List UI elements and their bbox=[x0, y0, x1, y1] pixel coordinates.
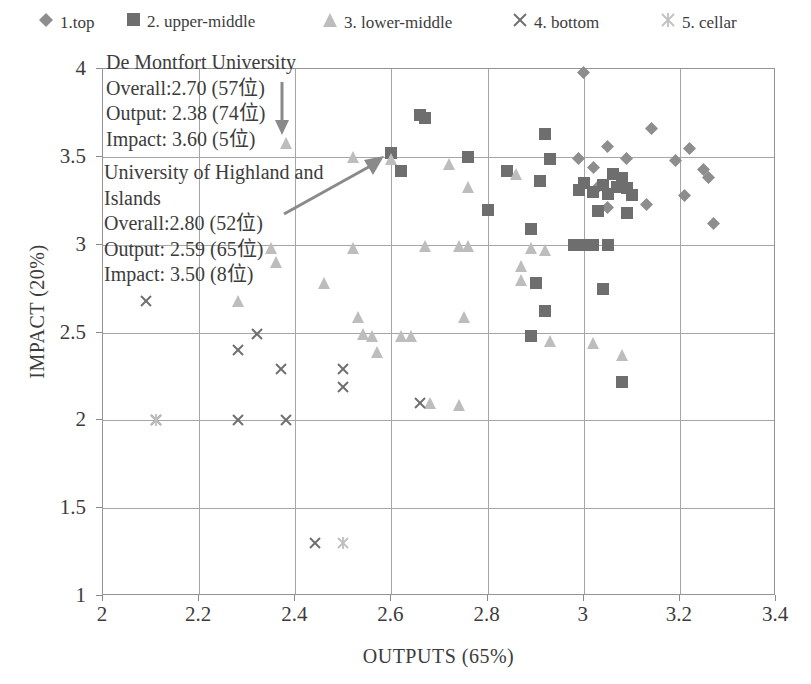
data-point-triangle bbox=[370, 345, 384, 359]
data-point-triangle bbox=[514, 259, 528, 273]
data-point-square bbox=[538, 304, 552, 318]
data-point-square bbox=[394, 164, 408, 178]
data-point-cross bbox=[231, 413, 245, 427]
data-point-triangle bbox=[346, 241, 360, 255]
data-point-cross bbox=[413, 396, 427, 410]
data-point-square bbox=[591, 204, 605, 218]
y-tick-label: 3.5 bbox=[30, 145, 86, 166]
data-point-diamond bbox=[644, 121, 659, 136]
data-point-square bbox=[524, 329, 538, 343]
legend-item-2[interactable]: 2. upper-middle bbox=[126, 12, 255, 31]
data-point-square bbox=[586, 238, 600, 252]
legend-item-3[interactable]: 3. lower-middle bbox=[322, 12, 452, 32]
data-point-asterisk bbox=[336, 536, 350, 550]
gridline-horizontal bbox=[103, 508, 774, 509]
chart-legend: 1.top2. upper-middle3. lower-middle4. bo… bbox=[0, 8, 811, 42]
x-tick-mark bbox=[487, 595, 488, 601]
data-point-diamond bbox=[668, 153, 683, 168]
data-point-triangle bbox=[442, 157, 456, 171]
x-tick-mark bbox=[198, 595, 199, 601]
data-point-asterisk bbox=[149, 413, 163, 427]
x-tick-mark bbox=[775, 595, 776, 601]
data-point-triangle bbox=[231, 294, 245, 308]
data-point-cross bbox=[336, 380, 350, 394]
asterisk-marker bbox=[660, 12, 676, 32]
data-point-diamond bbox=[576, 65, 591, 80]
data-point-triangle bbox=[461, 180, 475, 194]
data-point-square bbox=[572, 183, 586, 197]
data-point-diamond bbox=[701, 170, 716, 185]
x-tick-label: 3.4 bbox=[745, 604, 805, 625]
y-tick-mark bbox=[96, 156, 102, 157]
data-point-diamond bbox=[639, 197, 654, 212]
data-point-cross bbox=[336, 362, 350, 376]
data-point-diamond bbox=[571, 151, 586, 166]
x-tick-label: 2.2 bbox=[168, 604, 228, 625]
data-point-triangle bbox=[586, 336, 600, 350]
data-point-triangle bbox=[514, 273, 528, 287]
annotation-arrow-up-right bbox=[280, 150, 390, 220]
legend-item-label: 5. cellar bbox=[682, 14, 737, 31]
y-tick-label: 2 bbox=[30, 409, 86, 430]
data-point-cross bbox=[250, 327, 264, 341]
data-point-diamond bbox=[677, 188, 692, 203]
gridline-vertical bbox=[584, 69, 585, 594]
x-tick-mark bbox=[583, 595, 584, 601]
data-point-diamond bbox=[619, 151, 634, 166]
scatter-chart: 1.top2. upper-middle3. lower-middle4. bo… bbox=[0, 0, 811, 684]
x-axis-label: OUTPUTS (65%) bbox=[102, 645, 775, 668]
y-tick-label: 1.5 bbox=[30, 497, 86, 518]
data-point-square bbox=[538, 127, 552, 141]
data-point-square bbox=[596, 282, 610, 296]
data-point-triangle bbox=[615, 348, 629, 362]
x-tick-label: 3 bbox=[553, 604, 613, 625]
legend-item-5[interactable]: 5. cellar bbox=[660, 12, 737, 32]
data-point-square bbox=[418, 111, 432, 125]
data-point-square bbox=[524, 222, 538, 236]
data-point-triangle bbox=[418, 239, 432, 253]
data-point-cross bbox=[279, 413, 293, 427]
data-point-cross bbox=[231, 343, 245, 357]
y-tick-mark bbox=[96, 244, 102, 245]
legend-item-label: 4. bottom bbox=[534, 14, 599, 31]
legend-item-1[interactable]: 1.top bbox=[38, 12, 94, 32]
gridline-horizontal bbox=[103, 420, 774, 421]
y-tick-mark bbox=[96, 332, 102, 333]
data-point-square bbox=[620, 206, 634, 220]
data-point-triangle bbox=[404, 329, 418, 343]
y-tick-label: 1 bbox=[30, 585, 86, 606]
y-tick-mark bbox=[96, 68, 102, 69]
data-point-square bbox=[481, 203, 495, 217]
data-point-cross bbox=[274, 362, 288, 376]
data-point-square bbox=[601, 238, 615, 252]
data-point-square bbox=[586, 185, 600, 199]
data-point-square bbox=[533, 174, 547, 188]
data-point-triangle bbox=[452, 398, 466, 412]
x-tick-mark bbox=[390, 595, 391, 601]
x-tick-mark bbox=[102, 595, 103, 601]
data-point-square bbox=[615, 375, 629, 389]
data-point-diamond bbox=[586, 160, 601, 175]
gridline-horizontal bbox=[103, 333, 774, 334]
legend-item-label: 3. lower-middle bbox=[344, 14, 452, 31]
data-point-square bbox=[461, 150, 475, 164]
data-point-square bbox=[543, 152, 557, 166]
x-tick-label: 2.6 bbox=[360, 604, 420, 625]
cross-marker bbox=[512, 12, 528, 32]
data-point-square bbox=[601, 187, 615, 201]
data-point-cross bbox=[139, 294, 153, 308]
gridline-vertical bbox=[488, 69, 489, 594]
data-point-triangle bbox=[509, 167, 523, 181]
data-point-triangle bbox=[524, 241, 538, 255]
legend-item-label: 2. upper-middle bbox=[147, 13, 255, 30]
x-tick-label: 3.2 bbox=[649, 604, 709, 625]
legend-item-4[interactable]: 4. bottom bbox=[512, 12, 599, 32]
x-tick-mark bbox=[294, 595, 295, 601]
y-tick-mark bbox=[96, 419, 102, 420]
y-tick-mark bbox=[96, 507, 102, 508]
triangle-marker bbox=[322, 12, 338, 32]
data-point-square bbox=[625, 188, 639, 202]
data-point-cross bbox=[308, 536, 322, 550]
data-point-square bbox=[529, 276, 543, 290]
x-tick-label: 2 bbox=[72, 604, 132, 625]
